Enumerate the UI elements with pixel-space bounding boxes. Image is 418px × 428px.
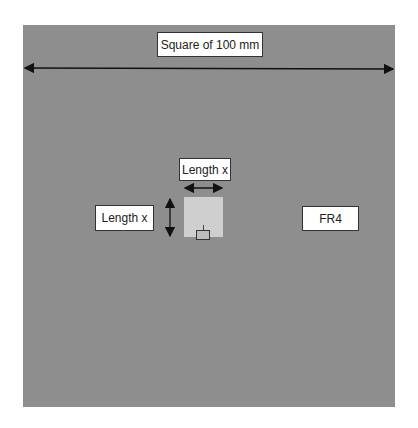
board-width-arrow [25, 68, 393, 69]
feed-port [196, 230, 210, 240]
patch-width-label: Length x [179, 158, 231, 181]
fr4-label: FR4 [302, 206, 359, 231]
patch-height-label: Length x [95, 205, 154, 231]
board-size-label: Square of 100 mm [157, 32, 263, 57]
